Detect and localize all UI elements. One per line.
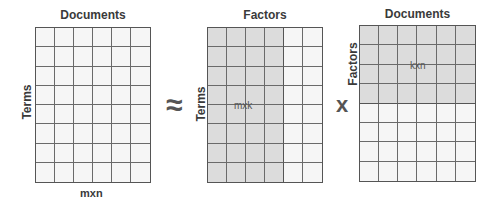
matrix-cell bbox=[112, 144, 131, 163]
matrix-cell bbox=[208, 28, 227, 47]
matrix-cell bbox=[227, 67, 246, 86]
matrix-cell bbox=[112, 163, 131, 182]
matrix-cell bbox=[379, 104, 398, 123]
matrix-cell bbox=[112, 67, 131, 86]
matrix-cell bbox=[284, 67, 303, 86]
matrix-cell bbox=[55, 124, 74, 143]
matrix-cell bbox=[456, 104, 475, 123]
matrix-cell bbox=[131, 105, 150, 124]
matrix-cell bbox=[246, 144, 265, 163]
matrix-cell bbox=[112, 105, 131, 124]
matrix-cell bbox=[303, 163, 322, 182]
matrix-cell bbox=[227, 124, 246, 143]
matrix-cell bbox=[36, 163, 55, 182]
matrix-cell bbox=[379, 45, 398, 64]
matrix-cell bbox=[208, 105, 227, 124]
matrix-w-side-label: Terms bbox=[194, 79, 208, 129]
matrix-cell bbox=[437, 26, 456, 45]
matrix-cell bbox=[417, 104, 436, 123]
matrix-cell bbox=[131, 86, 150, 105]
matrix-cell bbox=[208, 47, 227, 66]
matrix-w-dimension-label: mxk bbox=[234, 100, 252, 111]
matrix-cell bbox=[303, 124, 322, 143]
matrix-cell bbox=[284, 163, 303, 182]
matrix-cell bbox=[55, 105, 74, 124]
matrix-cell bbox=[55, 163, 74, 182]
matrix-cell bbox=[284, 124, 303, 143]
matrix-a-grid bbox=[35, 27, 151, 183]
matrix-cell bbox=[74, 28, 93, 47]
matrix-cell bbox=[93, 163, 112, 182]
matrix-cell bbox=[74, 86, 93, 105]
matrix-cell bbox=[379, 84, 398, 103]
matrix-cell bbox=[456, 142, 475, 161]
matrix-cell bbox=[303, 86, 322, 105]
matrix-cell bbox=[112, 28, 131, 47]
matrix-cell bbox=[93, 124, 112, 143]
matrix-cell bbox=[227, 47, 246, 66]
matrix-cell bbox=[284, 105, 303, 124]
matrix-cell bbox=[417, 162, 436, 181]
matrix-cell bbox=[74, 67, 93, 86]
matrix-cell bbox=[265, 86, 284, 105]
matrix-cell bbox=[398, 26, 417, 45]
matrix-cell bbox=[360, 162, 379, 181]
matrix-cell bbox=[55, 47, 74, 66]
matrix-cell bbox=[93, 105, 112, 124]
matrix-cell bbox=[208, 67, 227, 86]
matrix-cell bbox=[437, 45, 456, 64]
matrix-cell bbox=[417, 123, 436, 142]
matrix-cell bbox=[131, 47, 150, 66]
matrix-cell bbox=[303, 105, 322, 124]
matrix-cell bbox=[227, 163, 246, 182]
matrix-cell bbox=[36, 124, 55, 143]
matrix-w-grid bbox=[207, 27, 323, 183]
matrix-cell bbox=[93, 47, 112, 66]
matrix-cell bbox=[93, 144, 112, 163]
matrix-cell bbox=[284, 86, 303, 105]
matrix-cell bbox=[36, 28, 55, 47]
matrix-cell bbox=[360, 123, 379, 142]
matrix-cell bbox=[360, 104, 379, 123]
matrix-cell bbox=[265, 163, 284, 182]
matrix-cell bbox=[417, 26, 436, 45]
matrix-a-dimension-label: mxn bbox=[80, 187, 103, 199]
matrix-h-side-label: Factors bbox=[346, 37, 360, 92]
matrix-cell bbox=[93, 67, 112, 86]
matrix-cell bbox=[379, 65, 398, 84]
matrix-cell bbox=[265, 67, 284, 86]
matrix-cell bbox=[74, 124, 93, 143]
matrix-cell bbox=[398, 142, 417, 161]
matrix-cell bbox=[360, 65, 379, 84]
matrix-cell bbox=[379, 162, 398, 181]
matrix-cell bbox=[284, 28, 303, 47]
matrix-cell bbox=[417, 84, 436, 103]
matrix-cell bbox=[208, 144, 227, 163]
matrix-cell bbox=[456, 65, 475, 84]
matrix-cell bbox=[303, 47, 322, 66]
matrix-cell bbox=[246, 163, 265, 182]
matrix-cell bbox=[74, 47, 93, 66]
matrix-cell bbox=[246, 47, 265, 66]
matrix-cell bbox=[36, 47, 55, 66]
matrix-cell bbox=[112, 86, 131, 105]
matrix-cell bbox=[55, 144, 74, 163]
approx-operator: ≈ bbox=[166, 88, 182, 122]
matrix-cell bbox=[208, 86, 227, 105]
matrix-cell bbox=[265, 124, 284, 143]
matrix-cell bbox=[456, 123, 475, 142]
matrix-h-grid bbox=[359, 25, 476, 182]
matrix-cell bbox=[208, 163, 227, 182]
matrix-cell bbox=[246, 67, 265, 86]
matrix-cell bbox=[131, 67, 150, 86]
matrix-cell bbox=[112, 124, 131, 143]
matrix-cell bbox=[456, 26, 475, 45]
matrix-cell bbox=[55, 86, 74, 105]
matrix-a-title: Documents bbox=[35, 8, 151, 22]
matrix-a-side-label: Terms bbox=[20, 77, 34, 127]
matrix-cell bbox=[131, 28, 150, 47]
matrix-cell bbox=[379, 123, 398, 142]
matrix-h-title: Documents bbox=[359, 7, 476, 21]
matrix-cell bbox=[360, 26, 379, 45]
matrix-cell bbox=[55, 67, 74, 86]
